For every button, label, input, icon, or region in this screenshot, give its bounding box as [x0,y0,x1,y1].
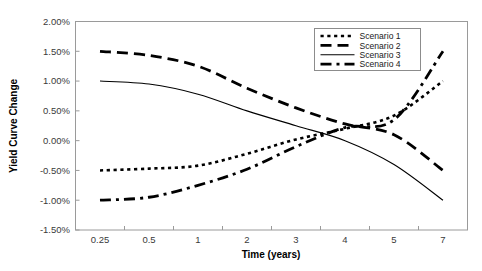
y-axis-tick-label: 2.00% [43,16,70,27]
x-axis-tick-label: 1 [195,234,200,245]
x-axis-tick-label: 7 [440,234,445,245]
y-axis-title: Yield Curve Change [8,79,19,174]
x-axis-tick-label: 4 [342,234,347,245]
y-axis-tick-label: 1.00% [43,75,70,86]
x-axis-tick-label: 0.25 [91,234,110,245]
y-axis-tick-label: -1.00% [40,195,71,206]
x-axis-tick-label: 2 [244,234,249,245]
y-axis-tick-label: -1.50% [40,224,71,235]
x-axis-tick-label: 5 [391,234,396,245]
x-axis-tick-label: 0.5 [142,234,155,245]
y-axis-tick-label: 0.50% [43,105,70,116]
x-axis-tick-label: 3 [293,234,298,245]
legend-label-scenario-4: Scenario 4 [360,59,401,69]
x-axis-title: Time (years) [242,249,301,260]
y-axis-tick-label: 1.50% [43,46,70,57]
chart-canvas: 2.00%1.50%1.00%0.50%0.00%-0.50%-1.00%-1.… [0,0,482,271]
y-axis-tick-label: -0.50% [40,165,71,176]
yield-curve-chart: 2.00%1.50%1.00%0.50%0.00%-0.50%-1.00%-1.… [0,0,482,271]
chart-legend: Scenario 1Scenario 2Scenario 3Scenario 4 [315,29,421,71]
y-axis-tick-label: 0.00% [43,135,70,146]
